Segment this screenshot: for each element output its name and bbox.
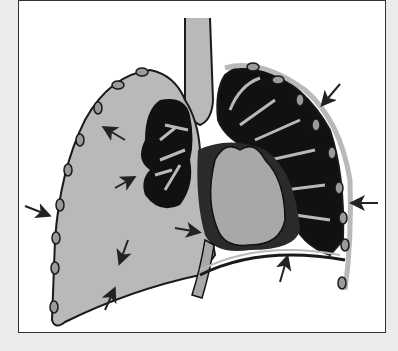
left-pleural-space — [52, 70, 215, 326]
arrow-icon — [25, 206, 48, 215]
thorax-diagram — [0, 0, 398, 351]
diaphragm — [200, 255, 345, 275]
arrow-icon — [280, 258, 287, 282]
collapsed-left-lung — [141, 99, 193, 208]
arrow-icon — [323, 84, 340, 104]
